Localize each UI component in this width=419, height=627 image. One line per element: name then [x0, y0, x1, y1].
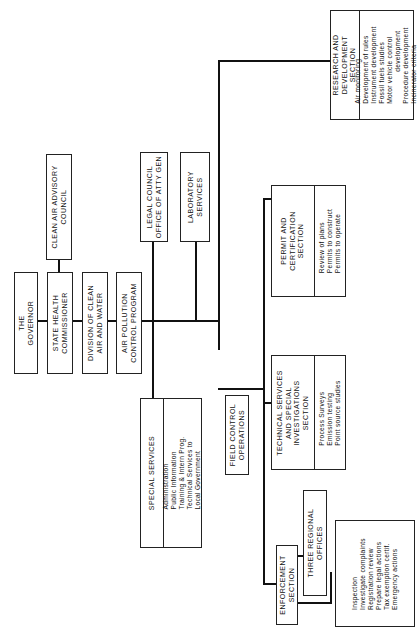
division-box: DIVISION OF CLEAN AIR AND WATER — [82, 272, 108, 374]
regional-offices-box: THREE REGIONAL OFFICES — [303, 490, 327, 596]
field-control-label: FIELD CONTROL OPERATIONS — [229, 404, 246, 467]
governor-label: THE GOVERNOR — [18, 301, 35, 346]
commissioner-label: STATE HEALTH COMMISSIONER — [52, 292, 69, 354]
permit-items: Review of plans Permits to construct Per… — [318, 209, 342, 273]
research-box: RESEARCH AND DEVELOPMENT SECTION Air mon… — [330, 10, 414, 120]
division-label: DIVISION OF CLEAN AIR AND WATER — [87, 285, 104, 361]
technical-services-items: Process Surveys Emission testing Point s… — [318, 380, 342, 445]
special-services-items: Administration Public Information Traini… — [162, 437, 202, 510]
commissioner-box: STATE HEALTH COMMISSIONER — [47, 272, 73, 374]
laboratory-label: LABORATORY SERVICES — [187, 171, 204, 223]
program-box: AIR POLLUTION CONTROL PROGRAM — [116, 272, 142, 374]
enforcement-items: Inspection Investigate complaints Regist… — [351, 538, 399, 610]
advisory-council-label: CLEAN AIR ADVISORY COUNCIL — [51, 165, 68, 248]
enforcement-label: ENFORCEMENT SECTION — [279, 555, 296, 615]
advisory-council-box: CLEAN AIR ADVISORY COUNCIL — [46, 154, 72, 260]
special-services-label: SPECIAL SERVICES — [148, 436, 157, 511]
program-label: AIR POLLUTION CONTROL PROGRAM — [121, 283, 138, 363]
legal-council-box: LEGAL COUNCIL OFFICE OF ATTY GEN — [140, 152, 168, 242]
connector-enf-items — [330, 572, 332, 604]
field-control-box: FIELD CONTROL OPERATIONS — [225, 395, 249, 475]
connector-research — [218, 60, 330, 62]
connector-technical — [263, 402, 271, 404]
permit-label: PERMIT AND CERTIFICATION SECTION — [280, 211, 306, 271]
connector-permit — [263, 198, 271, 200]
permit-box: PERMIT AND CERTIFICATION SECTION Review … — [271, 185, 346, 297]
connector-trunk — [150, 320, 218, 322]
special-services-box: SPECIAL SERVICES Administration Public I… — [140, 398, 202, 548]
legal-council-label: LEGAL COUNCIL OFFICE OF ATTY GEN — [146, 156, 163, 238]
technical-services-label: TECHNICAL SERVICES AND SPECIAL INVESTIGA… — [276, 370, 310, 456]
research-items: Air monitoring Development of rules Inst… — [354, 26, 418, 103]
enforcement-items-box: Inspection Investigate complaints Regist… — [335, 520, 415, 627]
connector-field-sections — [218, 388, 265, 390]
technical-services-box: TECHNICAL SERVICES AND SPECIAL INVESTIGA… — [271, 355, 346, 470]
regional-offices-label: THREE REGIONAL OFFICES — [307, 509, 324, 578]
connector-enf-items-h — [296, 602, 332, 604]
connector-field-trunk — [218, 60, 220, 350]
connector-sections-trunk — [263, 198, 265, 583]
connector-lab — [195, 240, 197, 322]
laboratory-box: LABORATORY SERVICES — [180, 152, 210, 242]
enforcement-box: ENFORCEMENT SECTION — [276, 545, 298, 625]
governor-box: THE GOVERNOR — [14, 272, 38, 374]
connector-legal-special — [152, 240, 154, 400]
